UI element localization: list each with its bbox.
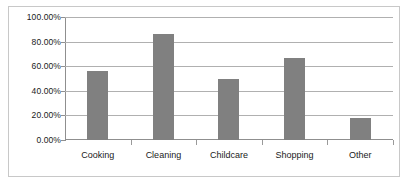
y-axis-tick-label: 60.00% xyxy=(32,61,61,71)
chart-frame: 0.00%20.00%40.00%60.00%80.00%100.00% Coo… xyxy=(8,6,400,177)
x-axis-category-label: Cooking xyxy=(65,145,131,167)
bar-slot xyxy=(196,17,262,140)
plot-area xyxy=(65,17,393,140)
bar[interactable] xyxy=(218,79,239,141)
x-axis-category-label: Childcare xyxy=(196,145,262,167)
bar[interactable] xyxy=(284,58,305,140)
y-axis-tick-label: 100.00% xyxy=(27,12,61,22)
x-axis-category-label: Shopping xyxy=(262,145,328,167)
x-axis-category-label: Cleaning xyxy=(131,145,197,167)
bar-slot xyxy=(65,17,131,140)
x-axis-category-labels: CookingCleaningChildcareShoppingOther xyxy=(65,145,393,167)
bars-layer xyxy=(65,17,393,140)
y-axis-tick-label: 20.00% xyxy=(32,110,61,120)
x-axis-tickmark xyxy=(393,140,394,145)
bar[interactable] xyxy=(350,118,371,140)
bar[interactable] xyxy=(153,34,174,140)
bar[interactable] xyxy=(87,71,108,140)
chart-plot-wrapper: 0.00%20.00%40.00%60.00%80.00%100.00% Coo… xyxy=(9,7,399,176)
bar-slot xyxy=(262,17,328,140)
y-axis-tick-label: 40.00% xyxy=(32,86,61,96)
bar-slot xyxy=(327,17,393,140)
y-axis-tick-labels: 0.00%20.00%40.00%60.00%80.00%100.00% xyxy=(9,17,65,140)
y-axis-tick-label: 0.00% xyxy=(36,135,61,145)
y-axis-tick-label: 80.00% xyxy=(32,37,61,47)
x-axis-category-label: Other xyxy=(327,145,393,167)
bar-slot xyxy=(131,17,197,140)
